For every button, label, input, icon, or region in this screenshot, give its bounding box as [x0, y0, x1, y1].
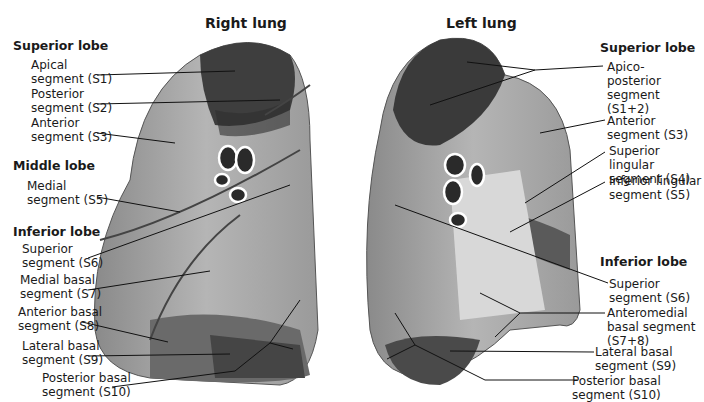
right-lung-title: Right lung [205, 15, 287, 31]
label-left-anteromedial-basal-s7-8: Anteromedialbasal segment(S7+8) [607, 306, 695, 348]
left-inferior-lobe-heading: Inferior lobe [600, 254, 687, 269]
label-right-posterior-s2: Posteriorsegment (S2) [31, 87, 112, 115]
right-superior-lobe-heading: Superior lobe [13, 38, 108, 53]
label-left-superior-s6: Superiorsegment (S6) [609, 277, 690, 305]
label-right-lateral-basal-s9: Lateral basalsegment (S9) [22, 339, 103, 367]
right-lung-shape [94, 43, 318, 386]
label-left-lateral-basal-s9: Lateral basalsegment (S9) [595, 345, 676, 373]
label-right-medial-s5: Medialsegment (S5) [27, 179, 108, 207]
label-left-anterior-s3: Anteriorsegment (S3) [607, 114, 688, 142]
label-right-medial-basal-s7: Medial basalsegment (S7) [20, 273, 101, 301]
right-inferior-lobe-heading: Inferior lobe [13, 224, 100, 239]
right-middle-lobe-heading: Middle lobe [13, 158, 95, 173]
label-right-anterior-basal-s8: Anterior basalsegment (S8) [18, 305, 102, 333]
left-lung-title: Left lung [446, 15, 517, 31]
label-right-anterior-s3: Anteriorsegment (S3) [31, 116, 112, 144]
label-left-inferior-lingular-s5: Inferior lingularsegment (S5) [609, 174, 701, 202]
label-left-posterior-basal-s10: Posterior basalsegment (S10) [572, 374, 661, 402]
label-right-superior-s6: Superiorsegment (S6) [22, 242, 103, 270]
label-right-apical-s1: Apicalsegment (S1) [31, 58, 112, 86]
label-right-posterior-basal-s10: Posterior basalsegment (S10) [42, 371, 131, 399]
left-superior-lobe-heading: Superior lobe [600, 40, 695, 55]
label-left-apicoposterior-s1-2: Apico-posteriorsegment(S1+2) [607, 60, 661, 116]
